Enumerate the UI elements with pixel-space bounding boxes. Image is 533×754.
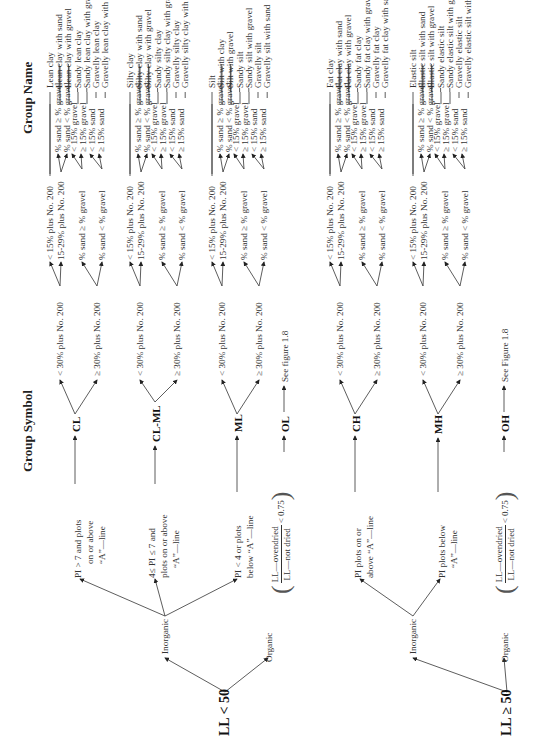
criteria-15-29-3: 15-29% plus No. 200 [336, 181, 346, 260]
symbol-cl: CL [70, 417, 82, 432]
c2-ge15-sand-3: ≥ 15% sand [376, 109, 386, 152]
symbol-mh: MH [432, 415, 444, 434]
group-name-header: Group Name [20, 62, 36, 134]
group-name-3-6: Gravelly fat clay with sand [380, 0, 390, 88]
c2-ge15-sand-1: ≥ 15% sand [176, 109, 186, 152]
criteria-lt15-1: < 15% plus No. 200 [125, 186, 135, 260]
condition-ch: PI plots on or above “A”—line [352, 516, 376, 578]
organic-label-2: Organic [500, 633, 510, 662]
organic-ratio-2: ( LL—ovendriedLL—not dried < 0.75 ) [492, 492, 518, 594]
ll-lt-50-label: LL < 50 [217, 689, 233, 736]
condition-cl: PI > 7 and plots on or above “A”—line [72, 520, 108, 578]
criteria-lt15-2: < 15% plus No. 200 [207, 186, 217, 260]
c2-ge15-sand-2: ≥ 15% sand [258, 109, 268, 152]
criteria-ge30-1: ≥ 30% plus No. 200 [172, 302, 182, 376]
group-name-4-6: Gravelly elastic silt with sand [463, 0, 473, 88]
c2-ge15-sand-0: ≥ 15% sand [96, 109, 106, 152]
c2-ge15-sand-4: ≥ 15% sand [459, 109, 469, 152]
criteria-sand-ge-gravel-2: % sand ≥ % gravel [239, 191, 249, 260]
inorganic-label-2: Inorganic [408, 619, 418, 654]
criteria-ge30-3: ≥ 30% plus No. 200 [372, 302, 382, 376]
group-name-1-6: Gravelly silty clay with sand [180, 0, 190, 88]
see-figure-ol: See figure 1.8 [280, 331, 290, 382]
symbol-ol: OL [279, 416, 291, 432]
criteria-lt15-3: < 15% plus No. 200 [325, 186, 335, 260]
symbol-ch: CH [350, 416, 362, 433]
condition-cl-ml: 4≤ PI ≤ 7 and plots on or above “A”—line [146, 514, 182, 578]
condition-mh: PI plots below “A”—line [436, 525, 460, 578]
criteria-15-29-0: 15-29% plus No. 200 [56, 181, 66, 260]
criteria-sand-lt-gravel-1: % sand < % gravel [177, 191, 187, 260]
criteria-ge30-4: ≥ 30% plus No. 200 [455, 302, 465, 376]
symbol-ml: ML [232, 414, 244, 432]
criteria-15-29-1: 15-29% plus No. 200 [136, 181, 146, 260]
criteria-sand-ge-gravel-4: % sand ≥ % gravel [440, 191, 450, 260]
organic-ratio-1: ( LL—ovendriedLL—not dried < 0.75 ) [268, 492, 294, 594]
group-name-0-6: Gravelly lean clay with sand [100, 0, 110, 88]
criteria-sand-lt-gravel-2: % sand < % gravel [259, 191, 269, 260]
criteria-sand-ge-gravel-1: % sand ≥ % gravel [157, 191, 167, 260]
criteria-lt30-2: < 30% plus No. 200 [217, 302, 227, 376]
criteria-15-29-4: 15-29% plus No. 200 [419, 181, 429, 260]
criteria-lt30-4: < 30% plus No. 200 [418, 302, 428, 376]
criteria-lt15-0: < 15% plus No. 200 [45, 186, 55, 260]
criteria-sand-ge-gravel-0: % sand ≥ % gravel [77, 191, 87, 260]
group-symbol-header: Group Symbol [20, 390, 36, 472]
symbol-oh: OH [499, 415, 511, 432]
criteria-lt30-1: < 30% plus No. 200 [135, 302, 145, 376]
classification-flowchart: Group Symbol Group Name LL < 50 Inorgani… [0, 0, 533, 754]
symbol-cl-ml: CL-ML [150, 405, 162, 442]
condition-ml: PI < 4 or plots below “A”—line [232, 515, 256, 578]
inorganic-label-1: Inorganic [160, 619, 170, 654]
ll-ge-50-label: LL ≥ 50 [499, 689, 515, 736]
criteria-sand-lt-gravel-3: % sand < % gravel [377, 191, 387, 260]
criteria-lt30-0: < 30% plus No. 200 [55, 302, 65, 376]
group-name-2-6: Gravelly silt with sand [262, 5, 272, 88]
criteria-15-29-2: 15-29% plus No. 200 [218, 181, 228, 260]
criteria-lt30-3: < 30% plus No. 200 [335, 302, 345, 376]
criteria-ge30-0: ≥ 30% plus No. 200 [92, 302, 102, 376]
criteria-lt15-4: < 15% plus No. 200 [408, 186, 418, 260]
see-figure-oh: See Figure 1.8 [500, 329, 510, 382]
criteria-sand-lt-gravel-4: % sand < % gravel [460, 191, 470, 260]
criteria-ge30-2: ≥ 30% plus No. 200 [254, 302, 264, 376]
organic-label-1: Organic [264, 633, 274, 662]
criteria-sand-lt-gravel-0: % sand < % gravel [97, 191, 107, 260]
criteria-sand-ge-gravel-3: % sand ≥ % gravel [357, 191, 367, 260]
